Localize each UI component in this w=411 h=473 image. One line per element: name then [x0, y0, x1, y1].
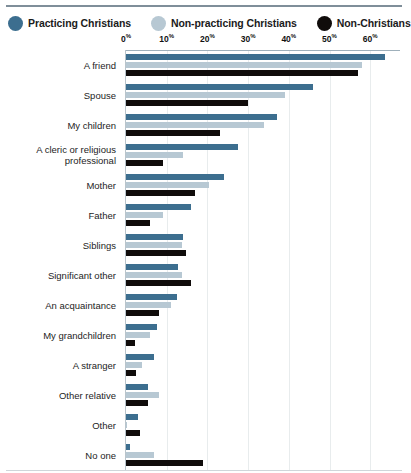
category-label: Other: [0, 411, 118, 441]
bar-row: Other relative: [0, 381, 408, 411]
bar-row: A cleric or religious professional: [0, 141, 408, 171]
category-label: A stranger: [0, 351, 118, 381]
bar-practicing-christians: [126, 144, 238, 150]
bar-non-christians: [126, 70, 358, 76]
bar-non-practicing-christians: [126, 212, 163, 218]
legend-swatch-non-christians: [317, 16, 332, 31]
bar-non-christians: [126, 460, 203, 466]
bar-non-christians: [126, 160, 163, 166]
bar-group: [126, 173, 408, 199]
bar-group: [126, 443, 408, 469]
x-tick-label-60: 60%: [363, 33, 378, 44]
bar-practicing-christians: [126, 174, 224, 180]
bar-practicing-christians: [126, 264, 178, 270]
bar-non-practicing-christians: [126, 122, 264, 128]
chart-legend: Practicing Christians Non-practicing Chr…: [6, 13, 406, 33]
bar-group: [126, 383, 408, 409]
bar-practicing-christians: [126, 414, 138, 420]
bar-row: Spouse: [0, 81, 408, 111]
bar-non-christians: [126, 280, 191, 286]
bar-non-practicing-christians: [126, 302, 171, 308]
bar-row: Other: [0, 411, 408, 441]
bar-non-practicing-christians: [126, 272, 182, 278]
bar-non-practicing-christians: [126, 422, 127, 428]
bar-non-christians: [126, 100, 248, 106]
bar-group: [126, 323, 408, 349]
x-tick-label-20: 20%: [200, 33, 215, 44]
bar-non-christians: [126, 400, 148, 406]
bar-row: Significant other: [0, 261, 408, 291]
x-tick-label-30: 30%: [241, 33, 256, 44]
bar-non-practicing-christians: [126, 182, 209, 188]
category-label: No one: [0, 441, 118, 471]
x-tick-label-40: 40%: [281, 33, 296, 44]
bar-practicing-christians: [126, 444, 130, 450]
bar-group: [126, 53, 408, 79]
bar-non-practicing-christians: [126, 242, 182, 248]
bar-row: An acquaintance: [0, 291, 408, 321]
x-axis-tick-labels: 0%10%20%30%40%50%60%: [0, 33, 408, 51]
bar-non-christians: [126, 190, 195, 196]
bar-practicing-christians: [126, 354, 154, 360]
bar-row: A friend: [0, 51, 408, 81]
bar-row: My grandchildren: [0, 321, 408, 351]
category-label: A friend: [0, 51, 118, 81]
legend-swatch-practicing-christians: [8, 16, 23, 31]
bar-row: No one: [0, 441, 408, 471]
bar-group: [126, 203, 408, 229]
bar-non-christians: [126, 370, 136, 376]
legend-label-non-practicing-christians: Non-practicing Christians: [171, 17, 297, 29]
bar-non-practicing-christians: [126, 332, 150, 338]
bar-group: [126, 263, 408, 289]
bar-non-christians: [126, 340, 135, 346]
bar-row: My children: [0, 111, 408, 141]
category-label: A cleric or religious professional: [0, 141, 118, 171]
bar-non-christians: [126, 310, 159, 316]
bar-non-christians: [126, 130, 220, 136]
bar-row: Mother: [0, 171, 408, 201]
bar-non-practicing-christians: [126, 152, 183, 158]
category-label: My children: [0, 111, 118, 141]
bar-practicing-christians: [126, 114, 277, 120]
bar-practicing-christians: [126, 84, 313, 90]
category-label: Other relative: [0, 381, 118, 411]
legend-label-practicing-christians: Practicing Christians: [28, 17, 131, 29]
bar-group: [126, 233, 408, 259]
plot-area: 0%10%20%30%40%50%60% A friendSpouseMy ch…: [0, 33, 408, 473]
bar-practicing-christians: [126, 54, 385, 60]
bar-practicing-christians: [126, 234, 183, 240]
bar-group: [126, 143, 408, 169]
legend-item-practicing-christians: Practicing Christians: [8, 16, 131, 31]
header-divider: [6, 5, 402, 7]
x-tick-label-0: 0%: [121, 33, 131, 44]
category-label: Siblings: [0, 231, 118, 261]
category-label: Father: [0, 201, 118, 231]
bar-non-practicing-christians: [126, 92, 285, 98]
bar-non-christians: [126, 220, 150, 226]
category-label: Spouse: [0, 81, 118, 111]
footer-divider: [6, 470, 402, 471]
bar-row: A stranger: [0, 351, 408, 381]
bar-practicing-christians: [126, 324, 157, 330]
legend-label-non-christians: Non-Christians: [337, 17, 411, 29]
x-tick-label-10: 10%: [159, 33, 174, 44]
category-label: My grandchildren: [0, 321, 118, 351]
bar-group: [126, 353, 408, 379]
bar-non-practicing-christians: [126, 452, 154, 458]
bar-non-practicing-christians: [126, 62, 362, 68]
category-label: An acquaintance: [0, 291, 118, 321]
bar-practicing-christians: [126, 384, 148, 390]
legend-swatch-non-practicing-christians: [151, 16, 166, 31]
bar-non-christians: [126, 250, 186, 256]
bar-group: [126, 83, 408, 109]
bar-row: Father: [0, 201, 408, 231]
bar-non-christians: [126, 430, 140, 436]
bar-practicing-christians: [126, 204, 191, 210]
legend-item-non-practicing-christians: Non-practicing Christians: [151, 16, 297, 31]
x-tick-label-50: 50%: [322, 33, 337, 44]
category-label: Mother: [0, 171, 118, 201]
bar-non-practicing-christians: [126, 392, 159, 398]
bar-row: Siblings: [0, 231, 408, 261]
bar-group: [126, 113, 408, 139]
